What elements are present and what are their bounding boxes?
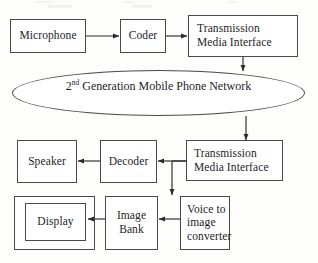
node-mobile-phone-network: 2nd Generation Mobile Phone Network bbox=[12, 70, 305, 116]
node-image-bank: Image Bank bbox=[105, 196, 158, 250]
node-transmission-media-interface-bottom: Transmission Media Interface bbox=[186, 140, 283, 181]
node-tx-interface-bottom-line1: Transmission bbox=[194, 147, 257, 159]
node-microphone: Microphone bbox=[10, 19, 86, 53]
scan-artifact bbox=[228, 1, 235, 3]
scan-artifact bbox=[125, 1, 134, 3]
node-tx-interface-bottom-line2: Media Interface bbox=[194, 161, 269, 173]
node-image-bank-line1: Image bbox=[117, 209, 146, 221]
node-tx-interface-top-line2: Media Interface bbox=[197, 36, 272, 48]
node-voice-to-image-converter: Voice to image converter bbox=[180, 196, 230, 250]
node-speaker-label: Speaker bbox=[26, 155, 68, 169]
node-tx-interface-top-line1: Transmission bbox=[197, 22, 260, 34]
scan-artifact bbox=[37, 1, 54, 3]
node-decoder-label: Decoder bbox=[107, 155, 151, 169]
node-microphone-label: Microphone bbox=[17, 29, 78, 43]
node-image-bank-line2: Bank bbox=[119, 223, 144, 235]
node-voice-converter-line1: Voice to bbox=[187, 203, 226, 215]
network-label-rest: Generation Mobile Phone Network bbox=[79, 79, 251, 93]
node-display-label: Display bbox=[35, 215, 75, 229]
block-diagram: Microphone Coder Transmission Media Inte… bbox=[0, 0, 318, 263]
node-speaker: Speaker bbox=[17, 140, 77, 183]
scan-artifact bbox=[48, 5, 72, 8]
node-transmission-media-interface-top: Transmission Media Interface bbox=[188, 15, 298, 57]
node-coder-label: Coder bbox=[127, 29, 160, 43]
node-voice-converter-line3: converter bbox=[187, 230, 231, 242]
node-mobile-phone-network-label: 2nd Generation Mobile Phone Network bbox=[66, 79, 251, 94]
node-display: Display bbox=[25, 203, 86, 241]
node-coder: Coder bbox=[120, 19, 166, 53]
node-decoder: Decoder bbox=[100, 140, 157, 183]
node-voice-converter-line2: image bbox=[187, 216, 216, 228]
scan-artifact bbox=[132, 5, 152, 8]
